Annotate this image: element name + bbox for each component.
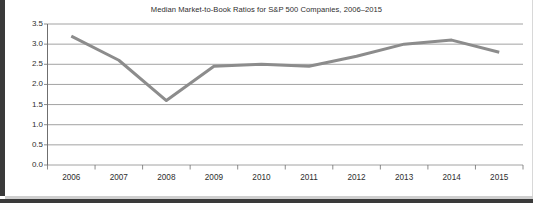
chart-figure: Median Market-to-Book Ratios for S&P 500… [0, 0, 533, 203]
ytick-label: 1.5 [15, 101, 43, 109]
figure-border-bottom [0, 199, 533, 203]
ytick-label: 3.5 [15, 20, 43, 28]
axes-group [44, 24, 48, 165]
plot-area: 0.00.51.01.52.02.53.03.5 200620072008200… [0, 0, 533, 196]
xtick-label: 2009 [191, 174, 237, 182]
ytick-label: 2.0 [15, 80, 43, 88]
xtick-label: 2006 [48, 174, 94, 182]
ytick-label: 1.0 [15, 121, 43, 129]
series-line [71, 36, 499, 100]
ytick-label: 3.0 [15, 40, 43, 48]
xtick-label: 2011 [286, 174, 332, 182]
xtick-label: 2008 [143, 174, 189, 182]
ytick-label: 2.5 [15, 60, 43, 68]
gridlines-group [48, 24, 524, 165]
ytick-label: 0.5 [15, 141, 43, 149]
ytick-label: 0.0 [15, 161, 43, 169]
xtick-label: 2013 [381, 174, 427, 182]
xtick-label: 2014 [429, 174, 475, 182]
xtick-label: 2012 [334, 174, 380, 182]
xtick-label: 2010 [238, 174, 284, 182]
plot-svg [0, 0, 533, 196]
xtick-marks-group [48, 165, 524, 170]
series-group [71, 36, 499, 100]
xtick-label: 2007 [96, 174, 142, 182]
xtick-label: 2015 [476, 174, 522, 182]
